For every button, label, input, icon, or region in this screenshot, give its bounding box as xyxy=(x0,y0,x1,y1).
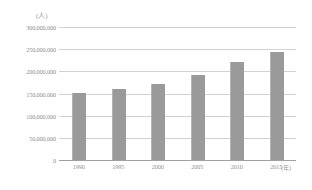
bar xyxy=(270,52,284,160)
bar xyxy=(151,84,165,160)
y-axis-tick-label: 100,000,000 xyxy=(26,112,56,119)
y-axis-tick-label: 150,000,000 xyxy=(26,90,56,97)
x-axis-tick-labels: (年) 199019952000200520102015 xyxy=(59,163,296,177)
x-axis-tick-label: 1995 xyxy=(112,163,124,170)
y-axis-tick-label: 250,000,000 xyxy=(26,46,56,53)
y-axis-tick-label: 0 xyxy=(53,157,56,164)
bar-chart: (人) 300,000,000250,000,000200,000,000150… xyxy=(0,0,312,190)
x-axis-tick-label: 2005 xyxy=(191,163,203,170)
y-axis-tick-labels: 300,000,000250,000,000200,000,000150,000… xyxy=(0,27,56,160)
x-axis-tick-label: 1990 xyxy=(73,163,85,170)
y-axis-tick-label: 50,000,000 xyxy=(29,134,56,141)
y-axis-unit-label: (人) xyxy=(36,10,48,20)
bar xyxy=(72,93,86,160)
bar xyxy=(230,62,244,160)
x-axis-tick-label: 2015 xyxy=(270,163,282,170)
y-axis-tick-label: 200,000,000 xyxy=(26,68,56,75)
plot-area xyxy=(59,27,296,160)
bar xyxy=(191,75,205,160)
x-axis-unit-label: (年) xyxy=(281,163,291,172)
y-axis-tick-label: 300,000,000 xyxy=(26,24,56,31)
axis-baseline xyxy=(59,160,296,161)
x-axis-tick-label: 2000 xyxy=(152,163,164,170)
x-axis-tick-label: 2010 xyxy=(231,163,243,170)
bar xyxy=(112,89,126,160)
bar-series xyxy=(59,27,296,160)
